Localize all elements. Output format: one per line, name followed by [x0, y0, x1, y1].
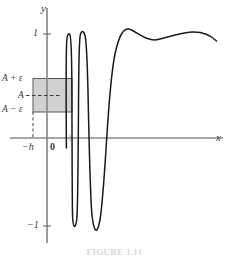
lower-bound-label: A − ε [2, 105, 23, 115]
upper-bound-label: A + ε [2, 74, 23, 84]
y-tick-label-negative-1: −1 [27, 220, 39, 230]
center-level-label: A [18, 91, 24, 101]
function-curve [66, 29, 216, 230]
y-axis-label: y [41, 3, 46, 14]
figure-caption: FIGURE 1.11 [0, 247, 229, 257]
minus-h-label: −h [22, 142, 34, 152]
y-tick-label-1: 1 [33, 28, 38, 38]
origin-label: 0 [50, 142, 55, 152]
figure-container: y x 1 −1 0 −h A + ε A A − ε FIGURE 1.11 [0, 0, 229, 260]
x-axis-label: x [216, 132, 221, 143]
